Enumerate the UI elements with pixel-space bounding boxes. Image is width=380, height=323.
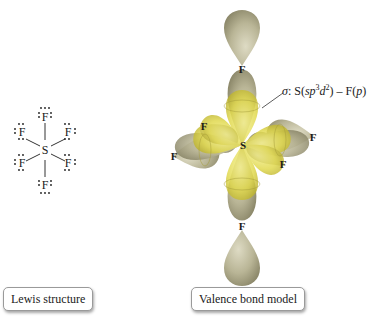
svg-text:F: F — [171, 150, 178, 162]
svg-text:F: F — [280, 158, 287, 170]
svg-text:S: S — [240, 139, 246, 151]
valence-bond-model-caption: Valence bond model — [191, 287, 305, 311]
svg-text:F: F — [310, 131, 317, 143]
svg-text:F: F — [239, 63, 246, 75]
annotation-text-suffix: ) — [362, 84, 366, 98]
sf6-orbital-overlap-icon: S F F F F F F — [0, 0, 380, 290]
annotation-text-mid: ) – F( — [330, 84, 357, 98]
sigma-bond-annotation: σ: S(sp3d2) – F(p) — [282, 83, 366, 99]
hybrid-sp: sp — [305, 84, 316, 98]
annotation-text-prefix: : S( — [288, 84, 305, 98]
lewis-structure-caption: Lewis structure — [3, 287, 93, 311]
svg-text:F: F — [201, 120, 208, 132]
svg-text:F: F — [239, 220, 246, 232]
valence-bond-model-diagram: S F F F F F F — [0, 0, 380, 290]
